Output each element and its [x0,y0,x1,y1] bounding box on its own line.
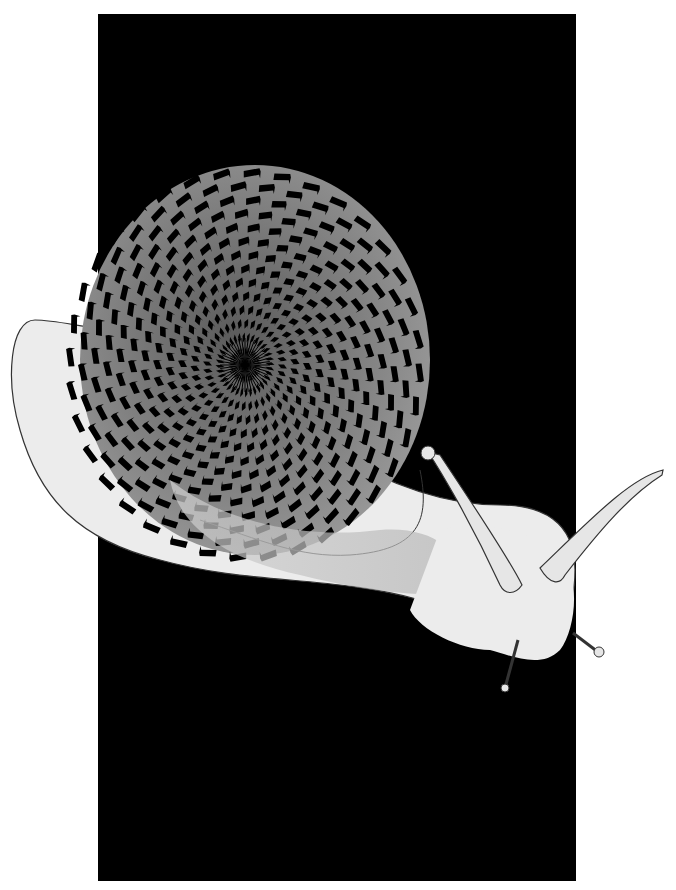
left-eye-knob [421,446,435,460]
snail-illustration [0,0,676,890]
lower-right-knob [594,647,604,657]
lower-right-tentacle [573,633,598,652]
lower-left-knob [501,684,509,692]
